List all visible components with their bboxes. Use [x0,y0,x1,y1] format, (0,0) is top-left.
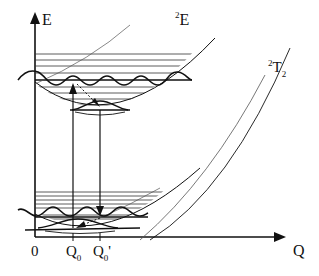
config-coordinate-diagram: E Q 0 Q0 Q0' 2E 2T2 [0,0,319,276]
origin-label: 0 [31,244,39,259]
lower-min-level [25,228,140,230]
crossing-curve-upper [35,25,130,84]
q0-label: Q0 [66,244,81,259]
lower-relaxation-arrowhead-icon [76,221,86,228]
lower-well-levels [35,192,175,219]
state-2T2-label: 2T2 [268,60,286,75]
lower-well-bottom [45,231,115,234]
x-axis-arrow-icon [274,232,286,242]
emission-arrowhead-icon [96,206,104,216]
x-axis-label: Q [293,243,305,259]
absorption-arrowhead-icon [69,83,77,94]
t2-curve-inner [140,75,265,240]
y-axis-arrow-icon [30,12,40,24]
state-2E-label: 2E [175,12,189,28]
diagram-canvas [0,0,319,276]
y-axis-label: E [42,12,52,28]
q0-prime-label: Q0' [93,244,111,259]
axes [30,12,286,242]
crossing-curve-lower [100,188,160,218]
